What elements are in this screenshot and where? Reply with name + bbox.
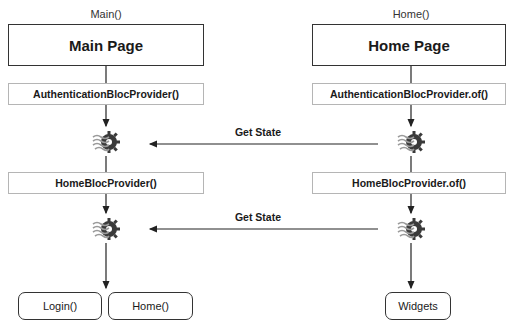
home-bloc-provider-of-box: HomeBlocProvider.of() bbox=[312, 172, 506, 194]
home-bloc-provider-box: HomeBlocProvider() bbox=[8, 172, 204, 194]
bloc-gear-icon bbox=[396, 128, 426, 156]
get-state-label-2: Get State bbox=[208, 211, 308, 223]
bloc-gear-icon bbox=[91, 215, 121, 243]
auth-bloc-provider-box: AuthenticationBlocProvider() bbox=[8, 83, 204, 105]
main-column-label: Main() bbox=[46, 8, 166, 20]
auth-bloc-provider-label: AuthenticationBlocProvider() bbox=[33, 88, 179, 100]
main-page-box: Main Page bbox=[8, 24, 204, 66]
home-bloc-provider-of-label: HomeBlocProvider.of() bbox=[352, 177, 466, 189]
home-column-label: Home() bbox=[351, 8, 471, 20]
widgets-box: Widgets bbox=[385, 292, 451, 320]
main-page-title: Main Page bbox=[69, 37, 143, 54]
home-page-title: Home Page bbox=[368, 37, 450, 54]
auth-bloc-provider-of-label: AuthenticationBlocProvider.of() bbox=[330, 88, 488, 100]
bloc-gear-icon bbox=[91, 128, 121, 156]
login-label: Login() bbox=[43, 300, 77, 312]
get-state-label-1: Get State bbox=[208, 126, 308, 138]
home-page-box: Home Page bbox=[312, 24, 506, 66]
widgets-label: Widgets bbox=[398, 300, 438, 312]
auth-bloc-provider-of-box: AuthenticationBlocProvider.of() bbox=[312, 83, 506, 105]
login-box: Login() bbox=[18, 292, 102, 320]
home-box: Home() bbox=[108, 292, 193, 320]
home-bloc-provider-label: HomeBlocProvider() bbox=[55, 177, 157, 189]
home-label: Home() bbox=[132, 300, 169, 312]
bloc-gear-icon bbox=[396, 215, 426, 243]
